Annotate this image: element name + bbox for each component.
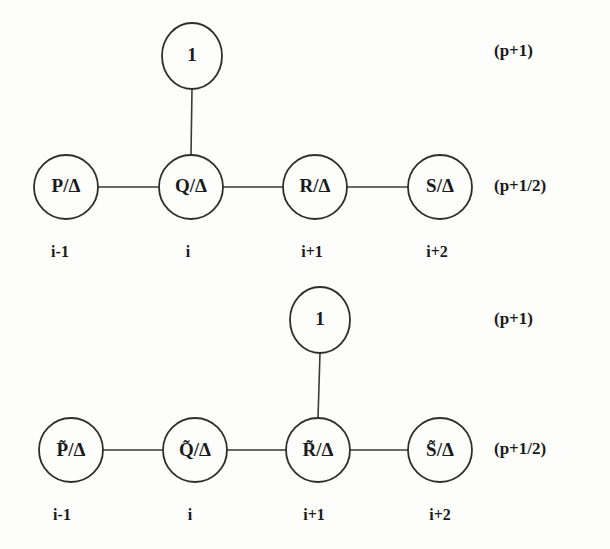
upper-apex-node-label: 1: [187, 44, 197, 65]
lower-index-label-i: i: [188, 506, 193, 523]
lower-node-P-tilde[interactable]: P̃/Δ: [39, 418, 103, 482]
upper-index-label-i-plus-1: i+1: [301, 243, 323, 260]
upper-node-S-label: S/Δ: [426, 175, 454, 196]
lower-index-label-i-minus-1: i-1: [53, 506, 71, 523]
lower-node-S-tilde[interactable]: S̃/Δ: [408, 418, 472, 482]
lower-apex-node-label: 1: [315, 308, 325, 329]
lower-node-Q-tilde[interactable]: Q̃/Δ: [163, 418, 227, 482]
upper-stencil-group: 1 P/Δ Q/Δ R/Δ S/Δ i-1 i i+1: [34, 23, 546, 260]
upper-level-label-p-plus-1: (p+1): [494, 41, 533, 60]
upper-index-label-i-minus-1: i-1: [51, 243, 69, 260]
upper-index-label-i-plus-2: i+2: [426, 243, 448, 260]
upper-node-R[interactable]: R/Δ: [283, 155, 347, 219]
lower-node-P-tilde-label: P̃/Δ: [57, 439, 86, 460]
lower-node-S-tilde-label: S̃/Δ: [426, 439, 454, 460]
lower-stencil-group: 1 P̃/Δ Q̃/Δ R̃/Δ S̃/Δ i-1 i i+1: [39, 287, 546, 523]
lower-apex-node[interactable]: 1: [290, 287, 350, 353]
diagram-page: 1 P/Δ Q/Δ R/Δ S/Δ i-1 i i+1: [0, 0, 610, 549]
edge-apex-to-Q: [191, 89, 192, 155]
upper-node-Q[interactable]: Q/Δ: [159, 155, 223, 219]
upper-node-P-label: P/Δ: [52, 175, 81, 196]
lower-node-R-tilde-label: R̃/Δ: [303, 439, 334, 460]
upper-node-P[interactable]: P/Δ: [34, 155, 98, 219]
upper-node-S[interactable]: S/Δ: [408, 155, 472, 219]
upper-node-R-label: R/Δ: [300, 175, 331, 196]
lower-node-Q-tilde-label: Q̃/Δ: [179, 439, 211, 460]
lower-node-R-tilde[interactable]: R̃/Δ: [286, 418, 350, 482]
upper-apex-node[interactable]: 1: [162, 23, 222, 89]
lower-index-label-i-plus-2: i+2: [429, 506, 451, 523]
edge-apex-to-Rt: [318, 353, 320, 418]
lower-level-label-p-plus-1: (p+1): [494, 309, 533, 328]
upper-index-label-i: i: [186, 243, 191, 260]
upper-level-label-p-plus-half: (p+1/2): [494, 176, 546, 195]
lower-index-label-i-plus-1: i+1: [303, 506, 325, 523]
stencil-diagram-canvas: 1 P/Δ Q/Δ R/Δ S/Δ i-1 i i+1: [0, 0, 610, 549]
upper-node-Q-label: Q/Δ: [175, 175, 207, 196]
lower-level-label-p-plus-half: (p+1/2): [494, 439, 546, 458]
